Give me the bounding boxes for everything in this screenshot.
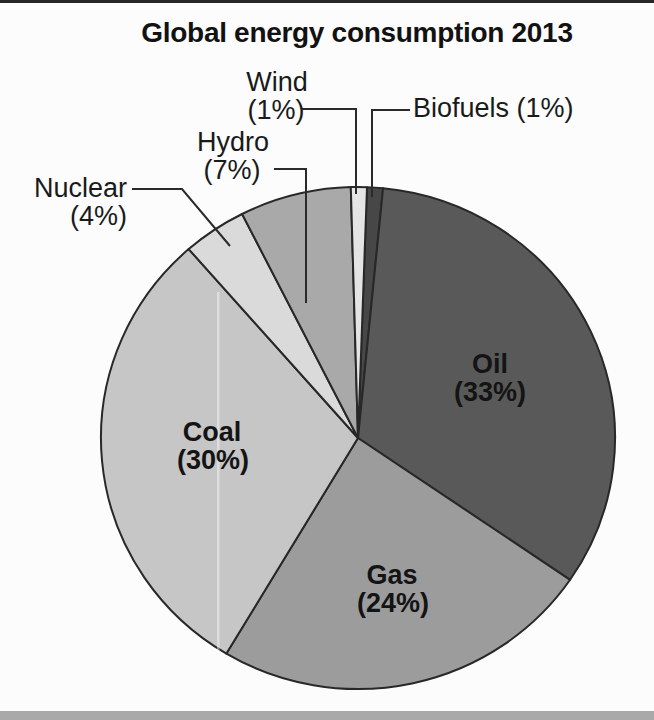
scan-bottom-bar [0,711,654,720]
leader-line-wind [302,109,356,194]
pie-chart: Biofuels (1%)Oil(33%)Gas(24%)Coal(30%)Nu… [0,0,654,720]
slice-label-oil-pct: (33%) [454,377,526,407]
slice-label-coal-pct: (30%) [177,445,249,475]
slice-label-coal-name: Coal [183,417,242,447]
scanned-chart-page: Global energy consumption 2013 Biofuels … [0,0,654,720]
slice-label-gas-pct: (24%) [357,588,429,618]
slice-label-hydro-pct: (7%) [203,155,260,185]
slice-label-nuclear-name: Nuclear [34,173,127,203]
slice-label-wind-pct: (1%) [247,95,304,125]
slice-label-gas-name: Gas [366,560,417,590]
slice-label-wind-name: Wind [246,67,308,97]
slice-label-hydro-name: Hydro [197,127,269,157]
slice-label-oil-name: Oil [472,349,508,379]
leader-line-biofuels [372,110,410,197]
slice-label-nuclear-pct: (4%) [70,201,127,231]
slice-label-biofuels: Biofuels (1%) [413,93,574,123]
